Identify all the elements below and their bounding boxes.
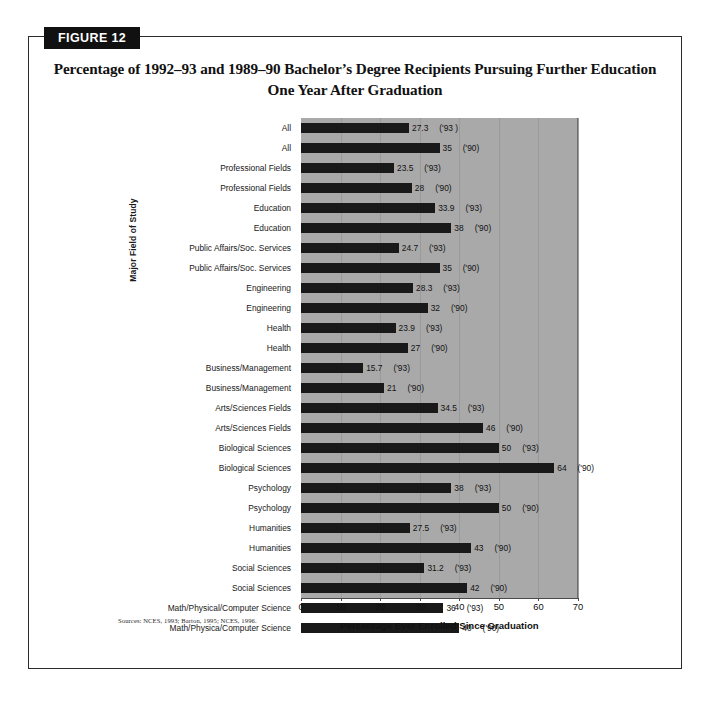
category-label: Health xyxy=(140,338,296,358)
bar-year-label: ('93) xyxy=(475,483,492,493)
bar-value-label: 46('90) xyxy=(486,421,523,435)
bar-year-label: ('93) xyxy=(440,523,457,533)
bar-value-label: 50('93) xyxy=(502,441,539,455)
bar xyxy=(301,543,471,553)
bar-value-number: 50 xyxy=(502,443,511,453)
bar-value-number: 50 xyxy=(502,503,511,513)
x-axis-tick-label: 10 xyxy=(335,601,345,612)
category-label: Humanities xyxy=(140,518,296,538)
category-label: All xyxy=(140,118,296,138)
category-label: Social Sciences xyxy=(140,558,296,578)
category-label: Public Affairs/Soc. Services xyxy=(140,258,296,278)
bar xyxy=(301,483,451,493)
sources-note: Sources: NCES, 1993; Barton, 1995; NCES,… xyxy=(118,617,257,624)
bar xyxy=(301,283,413,293)
bar-row: 21('90) xyxy=(301,378,577,398)
x-axis-tick-label: 70 xyxy=(573,601,583,612)
x-axis-tick-label: 0 xyxy=(298,601,303,612)
bar-row: 38('93) xyxy=(301,478,577,498)
category-label: Humanities xyxy=(140,538,296,558)
bar-row: 46('90) xyxy=(301,418,577,438)
bar-row: 33.9('93) xyxy=(301,198,577,218)
bar-row: 27.5('93) xyxy=(301,518,577,538)
x-axis-title: Percentage Ever Enrolled Since Graduatio… xyxy=(301,620,578,631)
x-axis-tick-label: 60 xyxy=(533,601,543,612)
bar-year-label: ('93) xyxy=(443,283,460,293)
chart-plot-wrapper: Major Field of Study AllAllProfessional … xyxy=(0,0,712,704)
bar-value-number: 43 xyxy=(474,543,483,553)
bar-row: 35('90) xyxy=(301,138,577,158)
category-label: Professional Fields xyxy=(140,178,296,198)
bar-value-label: 34.5('93) xyxy=(441,401,485,415)
category-label: Psychology xyxy=(140,498,296,518)
bar-value-number: 38 xyxy=(454,223,463,233)
bar-value-number: 32 xyxy=(431,303,440,313)
bar-value-number: 24.7 xyxy=(402,243,418,253)
bar-value-label: 64('90) xyxy=(557,461,594,475)
bar-year-label: ('90) xyxy=(435,183,452,193)
bar-value-number: 23.9 xyxy=(399,323,415,333)
bar xyxy=(301,163,394,173)
bar-row: 32('90) xyxy=(301,298,577,318)
bar xyxy=(301,203,435,213)
category-label: Social Sciences xyxy=(140,578,296,598)
bar-value-label: 50('90) xyxy=(502,501,539,515)
bar-row: 23.9('93) xyxy=(301,318,577,338)
bar-value-number: 33.9 xyxy=(438,203,454,213)
bar-value-number: 31.2 xyxy=(427,563,443,573)
category-label: Public Affairs/Soc. Services xyxy=(140,238,296,258)
bar xyxy=(301,223,451,233)
category-label: Professional Fields xyxy=(140,158,296,178)
bar-row: 42('90) xyxy=(301,578,577,598)
bar-value-label: 38('93) xyxy=(454,481,491,495)
bar-value-label: 43('90) xyxy=(474,541,511,555)
bar-year-label: ('93) xyxy=(426,323,443,333)
bar-row: 27.3('93 ) xyxy=(301,118,577,138)
bar-row: 35('90) xyxy=(301,258,577,278)
bar-row: 31.2('93) xyxy=(301,558,577,578)
bar xyxy=(301,143,440,153)
bar-row: 64('90) xyxy=(301,458,577,478)
bar-value-label: 28.3('93) xyxy=(416,281,460,295)
category-label: Arts/Sciences Fields xyxy=(140,418,296,438)
category-label: Health xyxy=(140,318,296,338)
bar xyxy=(301,323,396,333)
bar-year-label: ('90) xyxy=(491,583,508,593)
bar-year-label: ('90) xyxy=(475,223,492,233)
bar-value-number: 64 xyxy=(557,463,566,473)
bar-row: 50('93) xyxy=(301,438,577,458)
bar-value-label: 32('90) xyxy=(431,301,468,315)
bar-value-label: 35('90) xyxy=(443,261,480,275)
bar-value-label: 27.5('93) xyxy=(413,521,457,535)
bar xyxy=(301,463,554,473)
bar xyxy=(301,523,410,533)
figure-number-badge: FIGURE 12 xyxy=(44,27,140,49)
bar xyxy=(301,123,409,133)
bar-value-number: 28 xyxy=(415,183,424,193)
bar-value-label: 21('90) xyxy=(387,381,424,395)
bar-year-label: ('90) xyxy=(463,143,480,153)
bar-value-number: 28.3 xyxy=(416,283,432,293)
category-label: Biological Sciences xyxy=(140,458,296,478)
x-axis-tick-label: 40 xyxy=(454,601,464,612)
category-label: Psychology xyxy=(140,478,296,498)
bar-value-label: 24.7('93) xyxy=(402,241,446,255)
bar-row: 15.7('93) xyxy=(301,358,577,378)
bar-value-label: 23.5('93) xyxy=(397,161,441,175)
bar xyxy=(301,383,384,393)
bar-row: 38('90) xyxy=(301,218,577,238)
gridline-70 xyxy=(578,118,579,598)
category-label: Arts/Sciences Fields xyxy=(140,398,296,418)
category-label: Engineering xyxy=(140,278,296,298)
category-label: All xyxy=(140,138,296,158)
bar-year-label: ('93) xyxy=(429,243,446,253)
bar xyxy=(301,403,438,413)
x-axis-tick-label: 20 xyxy=(375,601,385,612)
bar xyxy=(301,583,467,593)
plot-area: 27.3('93 )35('90)23.5('93)28('90)33.9('9… xyxy=(301,118,578,598)
bar-value-number: 27.3 xyxy=(412,123,428,133)
bar-value-label: 38('90) xyxy=(454,221,491,235)
bar-row: 43('90) xyxy=(301,538,577,558)
bar-value-number: 42 xyxy=(470,583,479,593)
x-axis-tick-label: 30 xyxy=(414,601,424,612)
